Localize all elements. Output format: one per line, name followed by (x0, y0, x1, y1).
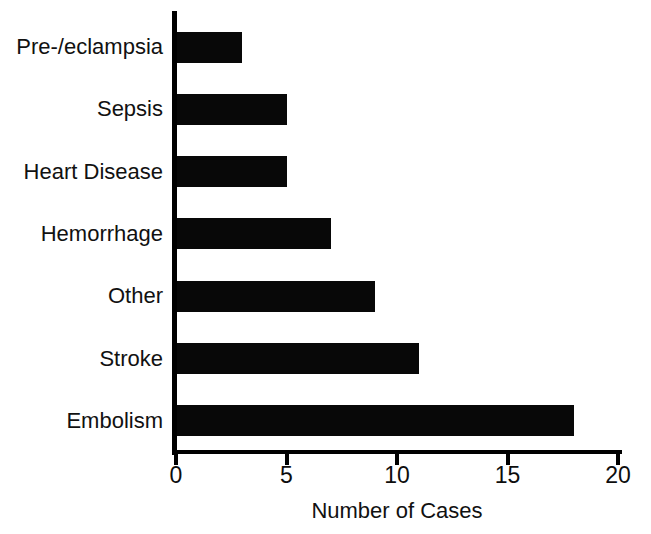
x-axis-tick-label: 20 (588, 462, 648, 489)
chart-page: Pre-/eclampsiaSepsisHeart DiseaseHemorrh… (0, 0, 651, 534)
bar (176, 32, 242, 63)
x-axis-tick-label: 5 (257, 462, 317, 489)
category-label: Heart Disease (0, 159, 163, 185)
bar-row: Pre-/eclampsia (0, 16, 651, 78)
category-label: Sepsis (0, 96, 163, 122)
bar-row: Stroke (0, 327, 651, 389)
bar (176, 94, 287, 125)
bar-row: Hemorrhage (0, 203, 651, 265)
bar (176, 156, 287, 187)
y-axis-line (172, 11, 177, 455)
x-axis-tick-label: 10 (367, 462, 427, 489)
bar-row: Sepsis (0, 78, 651, 140)
x-axis-title: Number of Cases (172, 498, 622, 524)
bar-row: Embolism (0, 390, 651, 452)
bar (176, 343, 419, 374)
category-label: Other (0, 283, 163, 309)
category-label: Stroke (0, 346, 163, 372)
x-axis-tick-label: 15 (478, 462, 538, 489)
category-label: Pre-/eclampsia (0, 34, 163, 60)
bar-chart-plot-area: Pre-/eclampsiaSepsisHeart DiseaseHemorrh… (0, 0, 651, 534)
bar (176, 281, 375, 312)
x-axis-tick-label: 0 (146, 462, 206, 489)
bar-row: Heart Disease (0, 141, 651, 203)
bar (176, 218, 331, 249)
bar-row: Other (0, 265, 651, 327)
category-label: Hemorrhage (0, 221, 163, 247)
bar (176, 405, 574, 436)
category-label: Embolism (0, 408, 163, 434)
